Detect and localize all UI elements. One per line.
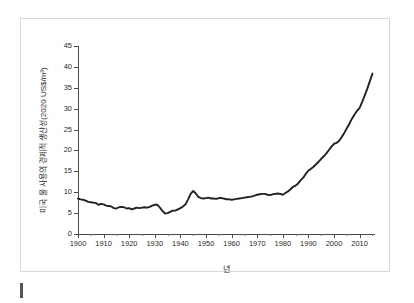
x-axis-title: 년 [78, 266, 375, 274]
x-axis-minor-tick [116, 234, 117, 236]
x-axis-tick-label: 1910 [95, 240, 112, 248]
y-axis-tick [74, 88, 78, 89]
x-axis-tick [78, 234, 79, 238]
y-axis-tick-label: 25 [64, 126, 72, 134]
y-axis-tick-label: 10 [64, 188, 72, 196]
x-axis-tick-label: 1950 [198, 240, 215, 248]
y-axis-tick-label: 45 [64, 42, 72, 50]
x-axis-tick-label: 1920 [121, 240, 138, 248]
y-axis-tick-label: 5 [68, 209, 72, 217]
x-axis-tick [257, 234, 258, 238]
x-axis-minor-tick [168, 234, 169, 236]
x-axis-line [78, 234, 375, 235]
y-axis-tick [74, 171, 78, 172]
x-axis-tick-label: 1930 [146, 240, 163, 248]
x-axis-minor-tick [347, 234, 348, 236]
x-axis-tick [206, 234, 207, 238]
x-axis-tick [334, 234, 335, 238]
y-axis-title: 미국 물 사용의 경제적 생산성(2020 US$/m³) [38, 46, 50, 234]
data-series-line [78, 46, 375, 234]
x-axis-tick-label: 1970 [249, 240, 266, 248]
y-axis-tick-label: 15 [64, 168, 72, 176]
x-axis-tick-label: 1960 [223, 240, 240, 248]
text-caret-icon [20, 283, 23, 298]
x-axis-tick [360, 234, 361, 238]
y-axis-tick [74, 150, 78, 151]
x-axis-minor-tick [296, 234, 297, 236]
x-axis-tick [155, 234, 156, 238]
y-axis-tick-label: 0 [68, 230, 72, 238]
x-axis-minor-tick [193, 234, 194, 236]
x-axis-tick [232, 234, 233, 238]
x-axis-tick-label: 1990 [300, 240, 317, 248]
y-axis-tick [74, 213, 78, 214]
x-axis-tick [104, 234, 105, 238]
screenshot-page: 미국 물 사용의 경제적 생산성(2020 US$/m³) 0510152025… [0, 0, 414, 303]
y-axis-tick [74, 67, 78, 68]
series-polyline [78, 74, 372, 214]
x-axis-tick-label: 1900 [70, 240, 87, 248]
y-axis-title-text: 미국 물 사용의 경제적 생산성(2020 US$/m³) [40, 67, 48, 212]
y-axis-tick-label: 30 [64, 105, 72, 113]
x-axis-minor-tick [372, 234, 373, 236]
y-axis-tick-label: 20 [64, 147, 72, 155]
y-axis-tick [74, 130, 78, 131]
y-axis-tick [74, 46, 78, 47]
x-axis-minor-tick [142, 234, 143, 236]
x-axis-tick-label: 2010 [351, 240, 368, 248]
x-axis-tick-label: 1940 [172, 240, 189, 248]
x-axis-minor-tick [244, 234, 245, 236]
x-axis-tick [283, 234, 284, 238]
x-axis-tick-label: 1980 [274, 240, 291, 248]
x-axis-minor-tick [91, 234, 92, 236]
y-axis-tick-label: 40 [64, 63, 72, 71]
chart-figure: 미국 물 사용의 경제적 생산성(2020 US$/m³) 0510152025… [20, 18, 390, 272]
x-axis-minor-tick [219, 234, 220, 236]
y-axis-tick [74, 109, 78, 110]
x-axis-minor-tick [321, 234, 322, 236]
x-axis-tick [308, 234, 309, 238]
y-axis-tick [74, 192, 78, 193]
y-axis-tick-label: 35 [64, 84, 72, 92]
x-axis-minor-tick [270, 234, 271, 236]
x-axis-tick [180, 234, 181, 238]
x-axis-tick [129, 234, 130, 238]
plot-area: 0510152025303540451900191019201930194019… [78, 46, 375, 234]
x-axis-tick-label: 2000 [326, 240, 343, 248]
